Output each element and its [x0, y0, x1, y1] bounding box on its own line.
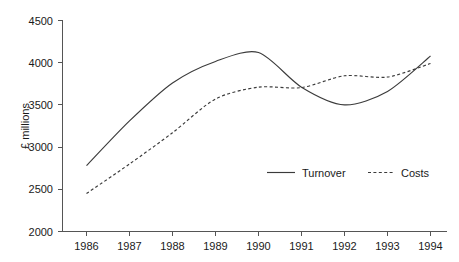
x-tick-label-1992: 1992: [332, 240, 356, 252]
y-tick-label-2500: 2500: [29, 183, 53, 195]
x-tick-label-1988: 1988: [160, 240, 184, 252]
y-tick-label-2000: 2000: [29, 226, 53, 238]
y-axis-title: £ millions: [19, 103, 31, 149]
x-tick-label-1991: 1991: [289, 240, 313, 252]
x-tick-label-1994: 1994: [418, 240, 442, 252]
y-axis-tick-labels: 4500 4000 3500 3000 2500 2000: [29, 15, 53, 238]
legend-label-costs: Costs: [401, 167, 430, 179]
y-tick-label-4000: 4000: [29, 57, 53, 69]
x-tick-label-1993: 1993: [375, 240, 399, 252]
x-tick-label-1989: 1989: [203, 240, 227, 252]
chart-legend: Turnover Costs: [267, 167, 430, 179]
y-axis-ticks: [58, 21, 63, 232]
y-tick-label-3500: 3500: [29, 99, 53, 111]
series-line-costs: [87, 64, 431, 194]
legend-label-turnover: Turnover: [302, 167, 346, 179]
series-line-turnover: [87, 52, 431, 166]
x-axis-tick-labels: 1986 1987 1988 1989 1990 1991 1992 1993 …: [74, 240, 442, 252]
chart-canvas: 4500 4000 3500 3000 2500 2000 1986 1987 …: [0, 0, 459, 262]
x-tick-label-1990: 1990: [246, 240, 270, 252]
x-axis-ticks: [87, 232, 431, 237]
y-tick-label-4500: 4500: [29, 15, 53, 27]
line-chart: 4500 4000 3500 3000 2500 2000 1986 1987 …: [0, 0, 459, 262]
x-tick-label-1987: 1987: [117, 240, 141, 252]
x-tick-label-1986: 1986: [74, 240, 98, 252]
y-tick-label-3000: 3000: [29, 141, 53, 153]
